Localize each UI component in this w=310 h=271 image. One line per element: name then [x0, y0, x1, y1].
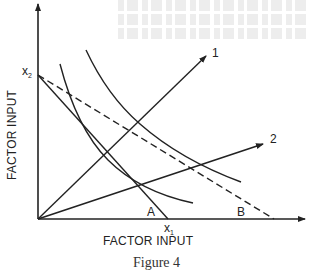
- figure-caption: Figure 4: [133, 255, 180, 271]
- x2-label: x2: [22, 64, 32, 79]
- ray-2-label: 2: [270, 132, 277, 146]
- ray-1: [38, 56, 206, 219]
- y-axis-title: FACTOR INPUT: [5, 85, 19, 185]
- ray-1-label: 1: [212, 46, 219, 60]
- budget-line-b-dashed: [38, 75, 274, 219]
- point-a-label: A: [147, 205, 155, 219]
- x-axis-title: FACTOR INPUT: [103, 234, 193, 248]
- x2-label-sub: 2: [28, 72, 32, 79]
- point-b-label: B: [237, 205, 245, 219]
